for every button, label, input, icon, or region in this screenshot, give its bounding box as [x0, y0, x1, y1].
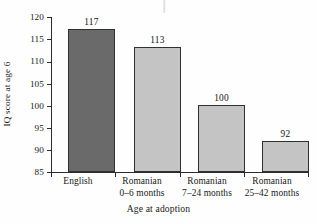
bar-value-label: 92	[262, 129, 309, 139]
y-tick-mark	[47, 150, 51, 151]
scan-artifact	[163, 0, 166, 13]
y-tick-mark	[47, 106, 51, 107]
bar-english[interactable]	[68, 29, 115, 172]
y-tick-label: 120	[20, 13, 44, 22]
y-tick-label: 115	[20, 35, 44, 44]
y-axis-title-text: IQ score at age 6	[2, 62, 12, 127]
y-tick-mark	[47, 17, 51, 18]
plot-area: 117 113 100 92	[51, 17, 309, 173]
bar-romanian-0-6[interactable]	[134, 47, 181, 172]
y-axis-tick-labels: 120 115 110 105 100 95 90 85	[18, 0, 44, 224]
y-tick-mark	[47, 84, 51, 85]
y-tick-mark	[47, 128, 51, 129]
y-tick-label: 105	[20, 80, 44, 89]
y-axis-title: IQ score at age 6	[0, 14, 14, 174]
y-tick-label: 90	[20, 146, 44, 155]
bar-value-label: 117	[68, 17, 115, 27]
y-tick-label: 100	[20, 102, 44, 111]
bar-value-label: 100	[198, 93, 245, 103]
x-axis-title: Age at adoption	[0, 203, 317, 214]
y-tick-mark	[47, 62, 51, 63]
bar-value-label: 113	[134, 35, 181, 45]
y-tick-label: 110	[20, 57, 44, 66]
x-category-line1: Romanian	[231, 176, 313, 188]
bar-romanian-25-42[interactable]	[262, 141, 309, 172]
y-tick-mark	[47, 39, 51, 40]
x-category-label-romanian-25-42: Romanian 25–42 months	[231, 176, 313, 199]
y-axis-line	[51, 17, 52, 173]
bar-romanian-7-24[interactable]	[198, 105, 245, 172]
bar-chart-figure: IQ score at age 6 120 115 110 105 100 95…	[0, 0, 317, 224]
x-category-line2: 25–42 months	[231, 188, 313, 200]
y-tick-label: 95	[20, 124, 44, 133]
